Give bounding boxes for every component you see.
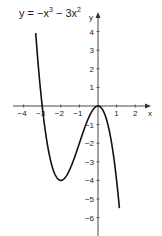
y-tick-label: −5 <box>85 195 95 204</box>
x-tick-label: −4 <box>18 109 28 118</box>
y-tick-label: −6 <box>85 214 95 223</box>
y-tick-label: 2 <box>90 65 95 74</box>
y-axis-arrow-icon <box>96 12 101 18</box>
y-tick-label: −4 <box>85 176 95 185</box>
y-tick-label: 1 <box>90 83 95 92</box>
x-tick-label: 2 <box>133 109 138 118</box>
y-tick-label: −3 <box>85 158 95 167</box>
function-plot: xy−4−3−2−1124321−1−2−3−4−5−6 <box>0 0 162 236</box>
function-curve <box>36 33 120 208</box>
y-tick-label: 4 <box>90 28 95 37</box>
y-tick-label: 3 <box>90 46 95 55</box>
y-tick-label: −2 <box>85 139 95 148</box>
x-tick-label: −2 <box>55 109 65 118</box>
x-tick-label: 1 <box>114 109 119 118</box>
x-tick-label: −3 <box>36 109 46 118</box>
y-axis-label: y <box>89 13 93 22</box>
x-axis-arrow-icon <box>145 104 151 109</box>
x-axis-label: x <box>148 109 152 118</box>
x-tick-label: −1 <box>73 109 83 118</box>
